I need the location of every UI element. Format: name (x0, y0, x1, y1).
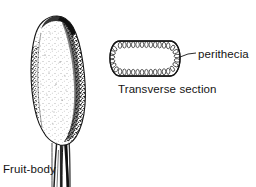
figure-root: Fruit-body Transverse section perithecia (0, 0, 256, 187)
fruit-body-label: Fruit-body (3, 164, 56, 176)
transverse-section-illustration (109, 40, 196, 76)
transverse-section-label: Transverse section (118, 84, 217, 96)
fruit-body-illustration (25, 10, 95, 187)
perithecia-leader-line (180, 53, 196, 57)
perithecia-label: perithecia (198, 49, 249, 61)
